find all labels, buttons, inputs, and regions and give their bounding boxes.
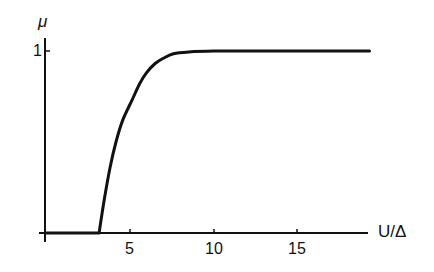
y-tick-label-1: 1 <box>33 42 42 60</box>
x-axis-label: U/Δ <box>378 222 406 242</box>
x-tick-label-10: 10 <box>205 240 223 258</box>
mu-curve <box>45 51 369 233</box>
x-tick-label-15: 15 <box>288 240 306 258</box>
plot-area <box>0 0 434 272</box>
x-tick-label-5: 5 <box>125 240 134 258</box>
y-axis-label: μ <box>38 12 47 32</box>
